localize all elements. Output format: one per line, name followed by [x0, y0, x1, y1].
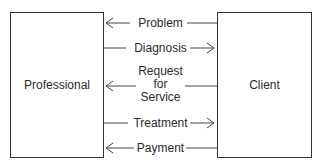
flow-problem-label: Problem [136, 16, 185, 30]
flow-payment-label: Payment [135, 141, 186, 155]
flow-request-line-3: Service [104, 91, 217, 104]
flow-payment: Payment [104, 141, 217, 155]
flow-treatment: Treatment [104, 116, 217, 130]
flow-treatment-label: Treatment [131, 116, 189, 130]
flow-diagnosis: Diagnosis [104, 41, 217, 55]
flow-request-for-service: Request for Service [104, 65, 217, 104]
flow-diagnosis-label: Diagnosis [132, 41, 189, 55]
flow-problem: Problem [104, 16, 217, 30]
